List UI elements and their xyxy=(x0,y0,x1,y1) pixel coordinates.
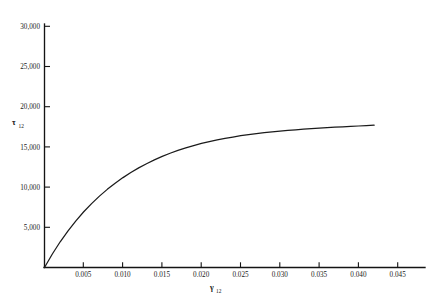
x-axis-ticks xyxy=(83,262,397,267)
chart-plot-area: 30,000 25,000 20,000 15,000 10,000 5,000… xyxy=(0,0,440,299)
y-tick-label: 25,000 xyxy=(20,63,40,71)
x-axis-tick-labels: 0.005 0.010 0.015 0.020 0.025 0.030 0.03… xyxy=(75,271,406,279)
x-tick-label: 0.010 xyxy=(115,271,132,279)
x-axis-title-symbol: γ xyxy=(209,283,214,292)
y-tick-label: 20,000 xyxy=(20,103,40,111)
y-tick-label: 30,000 xyxy=(20,23,40,31)
x-tick-label: 0.020 xyxy=(193,271,210,279)
x-tick-label: 0.025 xyxy=(232,271,249,279)
y-tick-label: 15,000 xyxy=(20,144,40,152)
data-series-line xyxy=(45,125,375,267)
y-axis-title-subscript: 12 xyxy=(19,123,25,129)
x-axis-title: γ 12 xyxy=(209,283,222,294)
y-axis-title: τ 12 xyxy=(12,118,24,129)
x-tick-label: 0.035 xyxy=(311,271,328,279)
y-axis-title-symbol: τ xyxy=(12,118,16,127)
chart-figure: 30,000 25,000 20,000 15,000 10,000 5,000… xyxy=(0,0,440,299)
y-axis-ticks xyxy=(45,26,51,227)
y-tick-label: 5,000 xyxy=(24,224,41,232)
x-axis-title-subscript: 12 xyxy=(216,288,222,294)
x-tick-label: 0.005 xyxy=(75,271,92,279)
x-tick-label: 0.015 xyxy=(154,271,171,279)
y-tick-label: 10,000 xyxy=(20,184,40,192)
x-tick-label: 0.040 xyxy=(350,271,367,279)
x-tick-label: 0.045 xyxy=(390,271,407,279)
x-tick-label: 0.030 xyxy=(272,271,289,279)
